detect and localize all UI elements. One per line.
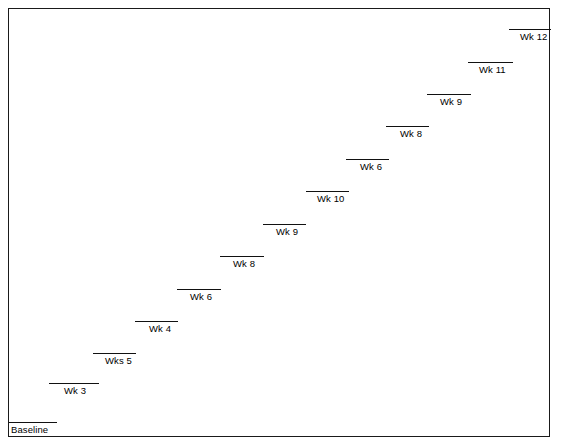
- step-label: Wk 12: [520, 31, 547, 42]
- step-line: [509, 29, 551, 30]
- step-group-12: Wk 12: [9, 9, 549, 436]
- chart-frame-border: BaselineWk 3Wks 5Wk 4Wk 6Wk 8Wk 9Wk 10Wk…: [8, 8, 550, 437]
- plot-area: BaselineWk 3Wks 5Wk 4Wk 6Wk 8Wk 9Wk 10Wk…: [9, 9, 549, 436]
- screenshot-canvas: BaselineWk 3Wks 5Wk 4Wk 6Wk 8Wk 9Wk 10Wk…: [0, 0, 561, 448]
